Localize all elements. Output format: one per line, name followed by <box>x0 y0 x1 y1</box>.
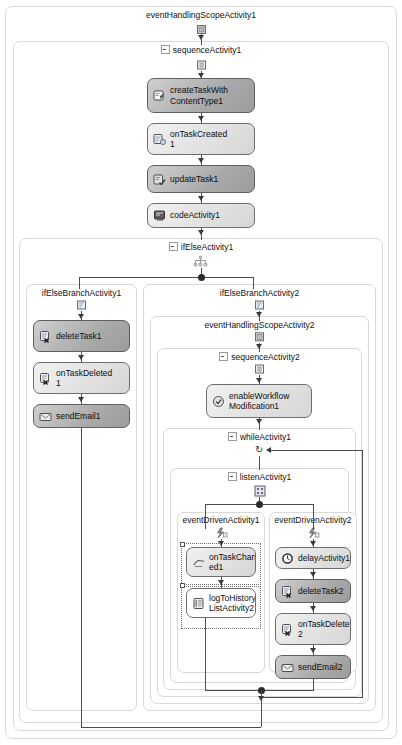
label-eventDrivenActivity1: eventDrivenActivity1 <box>173 515 269 525</box>
label-ifElseBranchActivity1: ifElseBranchActivity1 <box>26 288 137 298</box>
arrow-head <box>198 230 204 235</box>
arrow-head <box>256 378 262 383</box>
activity-label: updateTask1 <box>170 174 218 185</box>
log-to-history-icon <box>192 597 205 610</box>
connector <box>261 700 262 727</box>
scope-label-text: ifElseBranchActivity2 <box>220 288 299 298</box>
label-ifElseBranchActivity2: ifElseBranchActivity2 <box>143 288 376 298</box>
if-else-branch-icon-2 <box>254 300 265 311</box>
activity-label: deleteTask1 <box>56 331 101 342</box>
send-email-icon <box>281 661 294 674</box>
activity-onTaskDeleted2[interactable]: onTaskDeleted2 <box>275 613 351 645</box>
delete-task-icon <box>39 330 52 343</box>
arrow-head <box>266 447 271 453</box>
activity-label: onTaskChanged1 <box>209 552 256 573</box>
event-driven-icon-1 <box>215 527 228 539</box>
activity-label: codeActivity1 <box>170 210 220 221</box>
arrow-head <box>310 648 316 653</box>
arrow-head <box>310 572 316 577</box>
connector-loopback <box>262 697 363 698</box>
activity-logToHistoryListActivity2[interactable]: logToHistoryListActivity2 <box>186 588 256 618</box>
activity-label: delayActivity1 <box>298 553 350 564</box>
connector-split-bar <box>79 277 253 278</box>
arrow-head <box>198 116 204 121</box>
activity-createTaskWithContentType1[interactable]: createTaskWithContentType1 <box>147 78 255 113</box>
arrow-head <box>310 606 316 611</box>
activity-label: createTaskWithContentType1 <box>170 85 228 106</box>
expander-icon-sequenceActivity1[interactable] <box>161 45 170 54</box>
on-task-deleted-icon <box>281 623 294 636</box>
scope-label-text: sequenceActivity2 <box>231 352 300 362</box>
activity-onTaskCreated1[interactable]: onTaskCreated1 <box>147 123 255 155</box>
activity-sendEmail2[interactable]: sendEmail2 <box>275 655 351 679</box>
label-whileActivity1: whileActivity1 <box>163 432 356 442</box>
activity-deleteTask1[interactable]: deleteTask1 <box>33 320 130 352</box>
if-else-branch-icon-1 <box>76 300 87 311</box>
event-handling-scope-icon-2 <box>254 332 265 343</box>
connector <box>79 277 80 289</box>
activity-label: logToHistoryListActivity2 <box>209 593 256 614</box>
activity-label: onTaskCreated1 <box>170 129 227 150</box>
arrow-head <box>256 344 262 349</box>
code-icon <box>153 209 166 222</box>
selection-handle[interactable] <box>180 542 185 547</box>
enable-workflow-modification-icon <box>212 395 225 408</box>
activity-enableWorkflowModification1[interactable]: enableWorkflowModification1 <box>206 384 312 418</box>
label-sequenceActivity2: sequenceActivity2 <box>157 352 362 362</box>
connector <box>253 277 254 289</box>
activity-onTaskChanged1[interactable]: onTaskChanged1 <box>186 547 256 577</box>
sequence-icon-2 <box>254 364 265 375</box>
on-task-deleted-icon <box>39 372 52 385</box>
label-listenActivity1: listenActivity1 <box>170 472 349 482</box>
junction-dot <box>198 274 205 281</box>
update-task-icon <box>153 173 166 186</box>
activity-updateTask1[interactable]: updateTask1 <box>147 165 255 193</box>
scope-label-text: sequenceActivity1 <box>173 45 242 55</box>
expander-icon-whileActivity1[interactable] <box>228 432 237 441</box>
activity-label: onTaskDeleted2 <box>298 619 351 640</box>
scope-label-text: listenActivity1 <box>240 472 292 482</box>
expander-icon-ifElseActivity1[interactable] <box>169 242 178 251</box>
scope-label-text: eventHandlingScopeActivity2 <box>204 320 314 330</box>
expander-icon-sequenceActivity2[interactable] <box>219 352 228 361</box>
arrow-head <box>198 158 204 163</box>
expander-icon-listenActivity1[interactable] <box>228 472 237 481</box>
on-task-created-icon <box>153 133 166 146</box>
arrow-head <box>78 397 84 402</box>
delete-task-icon <box>281 585 294 598</box>
activity-sendEmail1[interactable]: sendEmail1 <box>33 404 130 428</box>
connector-loopback <box>268 450 363 451</box>
arrow-head <box>310 541 316 546</box>
selection-handle[interactable] <box>180 583 185 588</box>
listen-icon <box>254 485 266 497</box>
if-else-icon <box>192 256 209 268</box>
connector <box>81 727 261 728</box>
activity-codeActivity1[interactable]: codeActivity1 <box>147 203 255 228</box>
on-task-changed-icon <box>192 556 205 569</box>
connector-merge-bar <box>261 690 314 691</box>
connector <box>81 428 82 728</box>
create-task-icon <box>153 89 166 102</box>
delay-icon <box>281 552 294 565</box>
label-eventHandlingScopeActivity2: eventHandlingScopeActivity2 <box>150 320 369 330</box>
connector <box>259 456 260 470</box>
activity-deleteTask2[interactable]: deleteTask2 <box>275 579 351 603</box>
scope-label-text: ifElseActivity1 <box>181 242 233 252</box>
activity-label: onTaskDeleted1 <box>56 368 112 389</box>
workflow-canvas: eventHandlingScopeActivity1 sequenceActi… <box>0 0 402 745</box>
activity-label: sendEmail1 <box>56 411 100 422</box>
activity-delayActivity1[interactable]: delayActivity1 <box>275 547 351 569</box>
connector-loopback <box>362 450 363 697</box>
connector <box>205 504 206 529</box>
label-ifElseActivity1: ifElseActivity1 <box>19 242 383 252</box>
activity-label: sendEmail2 <box>298 662 342 673</box>
scope-label-text: whileActivity1 <box>240 432 291 442</box>
arrow-head <box>198 196 204 201</box>
connector <box>205 690 261 691</box>
connector <box>313 504 314 529</box>
activity-label: deleteTask2 <box>298 586 343 597</box>
activity-onTaskDeleted1[interactable]: onTaskDeleted1 <box>33 362 130 394</box>
junction-dot <box>256 501 263 508</box>
loop-icon: ↻ <box>255 445 263 455</box>
arrow-head <box>78 355 84 360</box>
